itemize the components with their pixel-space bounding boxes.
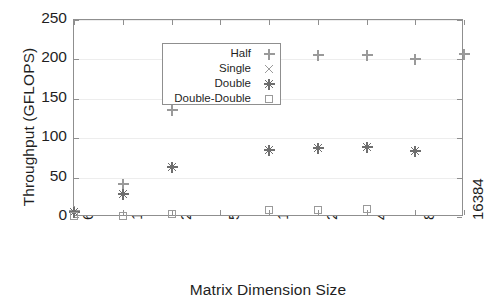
chart-figure: Throughput (GFLOPS) Matrix Dimension Siz… [0, 0, 485, 306]
x-axis-title: Matrix Dimension Size [73, 281, 463, 299]
y-axis-tick [74, 59, 79, 60]
data-point [310, 140, 325, 155]
legend-item-label: Double [163, 78, 256, 90]
legend-item: Half [163, 46, 282, 61]
legend-item: Double [163, 76, 282, 91]
plus-marker-icon [256, 46, 282, 61]
x-axis-tick [220, 210, 221, 215]
x-axis-tick [269, 20, 270, 25]
x-axis-tick-label: 16384 [469, 178, 485, 220]
y-axis-tick [457, 138, 462, 139]
gridline [74, 20, 462, 21]
data-point [68, 210, 80, 222]
y-axis-tick [74, 99, 79, 100]
gridline [74, 178, 462, 179]
x-axis-tick [367, 20, 368, 25]
x-axis-tick [74, 20, 75, 25]
x-axis-tick [123, 20, 124, 25]
legend-item-label: Half [163, 48, 256, 60]
y-axis-tick [457, 217, 462, 218]
data-point [166, 208, 178, 220]
x-axis-tick [220, 20, 221, 25]
legend-item: Single [163, 61, 282, 76]
data-point [117, 210, 129, 222]
y-axis-tick [457, 99, 462, 100]
x-axis-tick [172, 20, 173, 25]
data-point [310, 48, 325, 63]
y-axis-tick-label: 250 [21, 9, 67, 27]
y-axis-tick [457, 20, 462, 21]
data-point [361, 203, 373, 215]
data-point [408, 52, 423, 67]
legend-item: Double-Double [163, 91, 282, 106]
y-axis-tick [74, 138, 79, 139]
data-point [359, 47, 374, 62]
y-axis-tick [74, 178, 79, 179]
x-axis-tick [415, 20, 416, 25]
legend-item-label: Double-Double [163, 93, 256, 105]
y-axis-tick-label: 50 [21, 167, 67, 185]
y-axis-tick-label: 0 [21, 206, 67, 224]
cross-marker-icon [256, 61, 282, 76]
data-point [359, 139, 374, 154]
data-point [457, 46, 472, 61]
asterisk-marker-icon [256, 76, 282, 91]
y-axis-tick [457, 178, 462, 179]
y-axis-tick-label: 200 [21, 48, 67, 66]
y-axis-tick-label: 150 [21, 88, 67, 106]
y-axis-tick-label: 100 [21, 127, 67, 145]
x-axis-tick [464, 20, 465, 25]
data-point [408, 143, 423, 158]
legend: Half Single Double Double-Double [162, 43, 281, 105]
x-axis-tick [464, 210, 465, 215]
legend-item-label: Single [163, 63, 256, 75]
data-point [263, 204, 275, 216]
x-axis-tick [318, 20, 319, 25]
data-point [262, 143, 277, 158]
data-point [115, 187, 130, 202]
data-point [164, 159, 179, 174]
gridline [74, 138, 462, 139]
square-marker-icon [256, 91, 282, 106]
plot-area: Half Single Double Double-Double [73, 19, 463, 216]
data-point [312, 204, 324, 216]
x-axis-tick [415, 210, 416, 215]
